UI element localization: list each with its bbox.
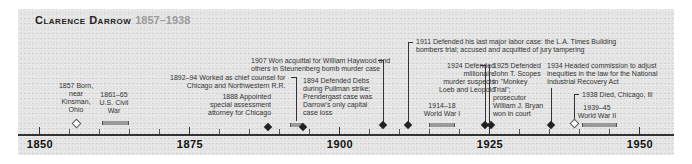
axis-tick [159,129,160,134]
axis-tick [549,129,550,134]
axis-tick [39,127,40,134]
event-counsel: 1892–94 Worked as chief counsel for Chic… [170,74,285,90]
leader-line [383,60,384,122]
title-name: Clarence Darrow [35,14,131,26]
leader-line [296,77,297,121]
axis-tick [609,129,610,134]
axis-label-1900: 1900 [327,138,353,150]
event-debs: 1894 Defended Debs during Pullman strike… [303,77,372,117]
event-labor: 1911 Defended his last major labor case:… [416,38,616,54]
event-ww1: 1914–18 World War I [424,102,461,118]
event-born: 1857 Born, near Kinsman, Ohio [59,82,93,114]
event-attorney: 1888 Appointed special assessment attorn… [208,93,271,117]
axis-label-1875: 1875 [177,138,203,150]
event-nra: 1934 Headed commission to adjust inequit… [547,62,658,86]
axis-tick [279,129,280,134]
axis-tick [429,129,430,134]
axis-tick [639,127,640,134]
period-bar-ww2 [582,123,617,127]
axis-tick [309,129,310,134]
leader-line [551,88,552,122]
leader-line [408,42,409,122]
axis-tick [69,129,70,134]
axis-label-1925: 1925 [477,138,503,150]
leader-line [485,65,486,122]
period-bar-ww1 [429,123,455,127]
axis-tick [339,127,340,134]
leader-line [574,94,579,95]
leader-line [408,42,413,43]
timeline-title: Clarence Darrow1857–1938 [35,14,190,26]
axis-tick [189,127,190,134]
axis-tick [369,129,370,134]
period-bar-civil-war [102,121,129,125]
axis-tick [99,129,100,134]
axis-tick [519,129,520,134]
event-ww2: 1939–45 World War II [578,104,617,120]
leader-line [574,94,575,121]
axis-tick [579,129,580,134]
axis-tick [459,129,460,134]
event-died: 1938 Died, Chicago, Ill [582,91,652,99]
leader-line [489,65,490,122]
title-dates: 1857–1938 [135,14,190,26]
timeline-axis [18,134,674,136]
axis-tick [249,129,250,134]
event-haywood: 1907 Won acquittal for William Haywood a… [251,57,390,73]
event-scopes: 1925 Defended John T. Scopes in "Monkey … [493,62,543,118]
event-civil-war: 1861–65 U.S. Civil War [100,91,129,115]
axis-tick [129,129,130,134]
axis-tick [399,129,400,134]
axis-label-1950: 1950 [627,138,653,150]
axis-tick [219,129,220,134]
axis-label-1850: 1850 [27,138,53,150]
